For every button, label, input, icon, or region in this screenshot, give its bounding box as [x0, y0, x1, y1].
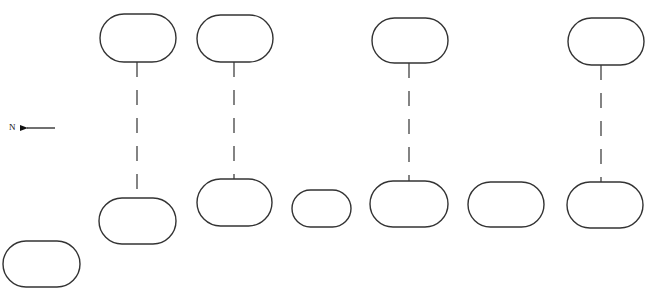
north-label: N: [9, 122, 16, 132]
shape-top-3: [372, 18, 448, 63]
north-indicator: N: [9, 122, 55, 132]
shape-bottom-4: [370, 181, 448, 227]
top-row-shapes: [100, 14, 644, 65]
shape-bottom-2: [197, 179, 272, 226]
connector-lines: [137, 62, 601, 198]
shape-top-2: [197, 15, 273, 62]
shape-bottom-6: [567, 182, 643, 228]
shape-bottom-5: [468, 182, 544, 227]
shape-top-4: [568, 18, 644, 65]
site-layout-diagram: N: [0, 0, 650, 290]
shape-top-1: [100, 14, 176, 62]
shape-bottom-0: [3, 241, 80, 287]
shape-bottom-1: [99, 198, 176, 244]
shape-bottom-3: [292, 190, 351, 227]
bottom-row-shapes: [3, 179, 643, 287]
